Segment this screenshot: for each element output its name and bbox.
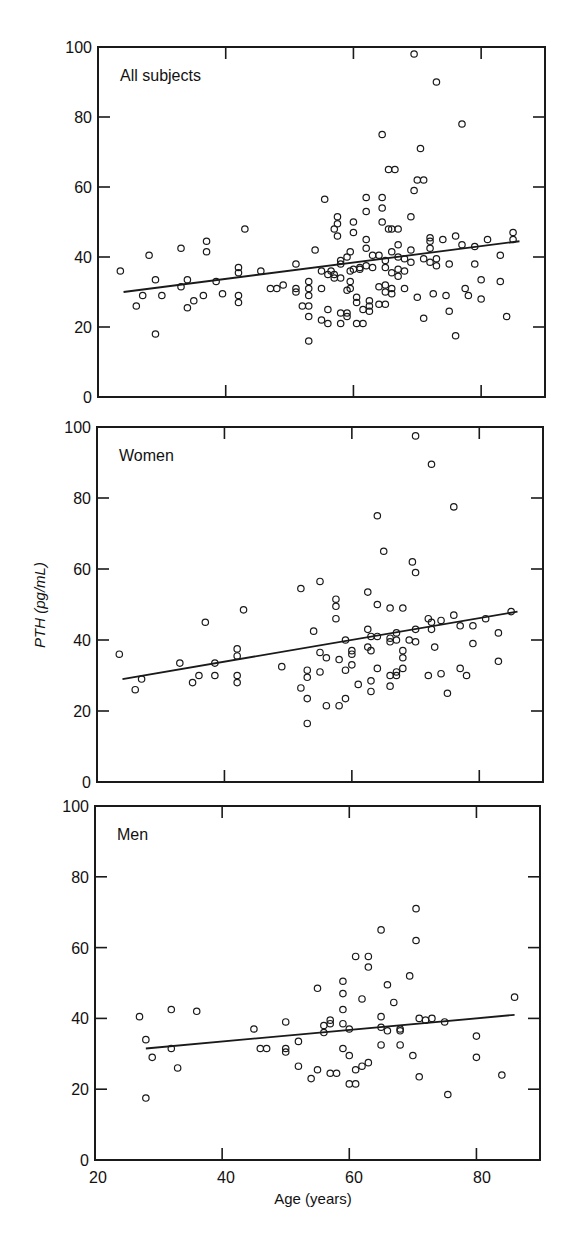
data-point (420, 256, 426, 262)
data-point (374, 513, 380, 519)
data-point (152, 331, 158, 337)
data-point (350, 219, 356, 225)
data-point (452, 333, 458, 339)
data-point (347, 249, 353, 255)
data-point (451, 504, 457, 510)
data-point (143, 1036, 149, 1042)
data-point (451, 612, 457, 618)
data-point (340, 1045, 346, 1051)
data-point (433, 263, 439, 269)
data-point (411, 187, 417, 193)
data-point (342, 695, 348, 701)
data-point (234, 646, 240, 652)
data-point (168, 1006, 174, 1012)
data-point (340, 1021, 346, 1027)
data-point (149, 1054, 155, 1060)
data-point (334, 214, 340, 220)
data-point (473, 1054, 479, 1060)
y-tick-label: 0 (80, 1152, 89, 1169)
data-point (349, 662, 355, 668)
data-point (138, 676, 144, 682)
data-point (279, 663, 285, 669)
data-point (347, 278, 353, 284)
data-point (184, 305, 190, 311)
data-point (251, 1026, 257, 1032)
data-point (340, 978, 346, 984)
data-point (318, 317, 324, 323)
data-point (325, 306, 331, 312)
data-point (382, 282, 388, 288)
data-point (234, 679, 240, 685)
panel-title: All subjects (120, 67, 201, 84)
data-point (429, 1015, 435, 1021)
data-point (495, 630, 501, 636)
data-point (321, 196, 327, 202)
data-point (304, 674, 310, 680)
data-point (431, 644, 437, 650)
data-point (369, 264, 375, 270)
y-tick-label: 100 (65, 39, 92, 56)
x-tick-label: 60 (345, 1169, 363, 1186)
data-point (459, 121, 465, 127)
data-point (333, 1070, 339, 1076)
data-point (334, 221, 340, 227)
data-point (196, 672, 202, 678)
data-point (317, 578, 323, 584)
data-point (446, 308, 452, 314)
data-point (159, 292, 165, 298)
data-point (295, 1063, 301, 1069)
data-point (365, 589, 371, 595)
data-point (365, 953, 371, 959)
data-point (132, 687, 138, 693)
data-point (333, 603, 339, 609)
data-point (438, 671, 444, 677)
data-point (412, 433, 418, 439)
data-point (310, 628, 316, 634)
data-point (219, 291, 225, 297)
data-point (510, 229, 516, 235)
data-point (363, 263, 369, 269)
data-point (140, 292, 146, 298)
data-point (283, 1019, 289, 1025)
regression-line (146, 1015, 515, 1049)
data-point (323, 655, 329, 661)
data-point (353, 320, 359, 326)
data-point (257, 1045, 263, 1051)
data-point (387, 672, 393, 678)
data-point (352, 1081, 358, 1087)
data-point (384, 1028, 390, 1034)
data-point (385, 166, 391, 172)
data-point (146, 252, 152, 258)
data-point (194, 1008, 200, 1014)
y-tick-label: 80 (73, 490, 91, 507)
panel-women: 020406080100Women (64, 419, 543, 791)
data-point (242, 226, 248, 232)
data-point (202, 619, 208, 625)
data-point (360, 320, 366, 326)
data-point (376, 301, 382, 307)
y-tick-label: 0 (83, 389, 92, 406)
data-points (116, 433, 514, 727)
data-point (374, 665, 380, 671)
data-point (440, 236, 446, 242)
data-point (497, 278, 503, 284)
data-point (317, 669, 323, 675)
data-point (438, 617, 444, 623)
data-points (117, 51, 516, 344)
data-point (382, 289, 388, 295)
y-tick-label: 20 (73, 703, 91, 720)
data-point (336, 656, 342, 662)
data-point (417, 145, 423, 151)
data-point (116, 651, 122, 657)
data-point (459, 242, 465, 248)
data-point (306, 278, 312, 284)
data-point (143, 1095, 149, 1101)
data-point (258, 268, 264, 274)
data-point (413, 905, 419, 911)
data-point (133, 303, 139, 309)
data-point (457, 623, 463, 629)
data-point (234, 672, 240, 678)
data-point (314, 985, 320, 991)
x-axis-title: Age (years) (274, 1190, 352, 1207)
data-point (299, 303, 305, 309)
